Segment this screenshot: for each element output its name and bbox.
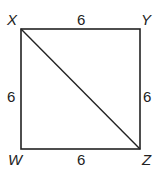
side-length-yz: 6 bbox=[143, 88, 151, 105]
diagonal-xz bbox=[21, 29, 140, 149]
side-length-xw: 6 bbox=[7, 88, 15, 105]
vertex-label-x: X bbox=[6, 11, 18, 28]
vertex-label-w: W bbox=[8, 151, 24, 168]
side-length-xy: 6 bbox=[77, 11, 85, 28]
square-diagram: X Y Z W 6 6 6 6 bbox=[0, 0, 160, 171]
side-length-wz: 6 bbox=[77, 151, 85, 168]
vertex-label-y: Y bbox=[141, 11, 152, 28]
vertex-label-z: Z bbox=[141, 151, 152, 168]
